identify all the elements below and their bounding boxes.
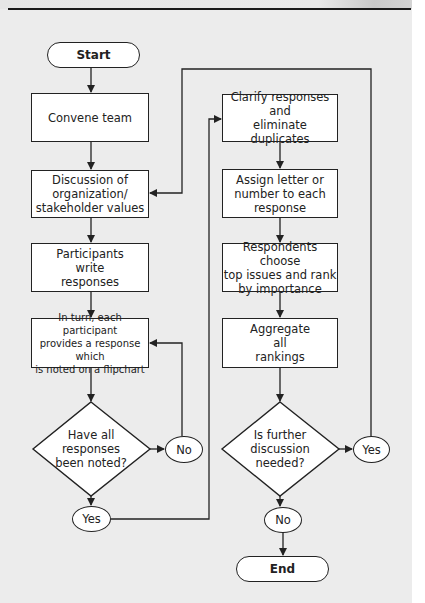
clarify-responses-box: Clarify responses and eliminate duplicat… [222,94,338,142]
respondents-rank-box: Respondents choose top issues and rank b… [222,243,338,292]
no-outcome-left: No [165,436,203,463]
yes-outcome-left: Yes [72,506,111,532]
discussion-values-box: Discussion of organization/ stakeholder … [31,170,149,218]
start-terminal: Start [47,42,140,68]
assign-letter-box: Assign letter or number to each response [222,169,338,218]
participants-write-box: Participants write responses [31,243,149,292]
end-terminal: End [236,556,329,582]
yes-outcome-right: Yes [353,436,390,463]
convene-team-box: Convene team [31,93,149,142]
in-turn-response-box: In turn, each participant provides a res… [31,318,149,368]
all-responses-noted-decision: Have all responses been noted? [45,427,137,471]
no-outcome-right: No [264,507,302,533]
connector-lines [0,0,425,603]
further-discussion-decision: Is further discussion needed? [234,427,326,471]
aggregate-rankings-box: Aggregate all rankings [222,318,338,368]
flowchart-page: Start Convene team Discussion of organiz… [0,0,425,603]
